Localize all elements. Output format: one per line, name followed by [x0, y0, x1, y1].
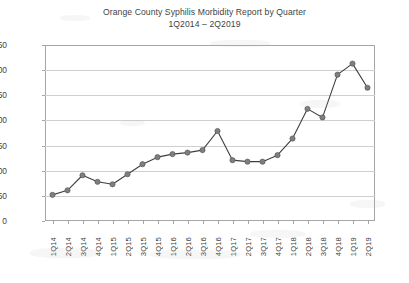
data-point: [320, 115, 325, 120]
chart-title-line2: 1Q2014 – 2Q2019: [0, 19, 409, 31]
x-axis-tick-label: 1Q18: [289, 237, 298, 256]
x-axis-tick-mark: [128, 221, 129, 224]
data-point: [155, 155, 160, 160]
x-axis-tick-mark: [308, 221, 309, 224]
data-point: [305, 106, 310, 111]
y-axis-tick-label: 350: [0, 40, 7, 50]
x-axis-tick-label: 3Q14: [79, 237, 88, 256]
x-axis-tick-label: 1Q17: [229, 237, 238, 256]
x-axis-tick-mark: [248, 221, 249, 224]
x-axis-tick-mark: [188, 221, 189, 224]
x-axis-tick-label: 4Q15: [154, 237, 163, 256]
x-axis-tick-label: 4Q18: [334, 237, 343, 256]
x-axis-tick-label: 3Q18: [319, 237, 328, 256]
data-point: [80, 173, 85, 178]
x-axis-tick-label: 2Q18: [304, 237, 313, 256]
x-axis-tick-label: 4Q17: [274, 237, 283, 256]
data-point: [350, 61, 355, 66]
y-axis-tick-mark: [42, 221, 45, 222]
y-axis-tick-label: 100: [0, 166, 7, 176]
x-axis-tick-mark: [83, 221, 84, 224]
data-point: [125, 172, 130, 177]
chart-card: Orange County Syphilis Morbidity Report …: [0, 0, 409, 283]
x-axis-tick-mark: [368, 221, 369, 224]
x-axis-tick-mark: [263, 221, 264, 224]
y-axis-tick-label: 150: [0, 141, 7, 151]
x-axis-tick-mark: [338, 221, 339, 224]
y-axis-tick-label: 200: [0, 115, 7, 125]
x-axis-tick-mark: [233, 221, 234, 224]
x-axis-tick-mark: [293, 221, 294, 224]
x-axis-tick-label: 1Q16: [169, 237, 178, 256]
data-point: [290, 136, 295, 141]
y-axis-tick-label: 300: [0, 65, 7, 75]
x-axis-tick-label: 1Q15: [109, 237, 118, 256]
data-point: [185, 150, 190, 155]
series-line: [53, 64, 368, 195]
data-series-syphilis: [45, 45, 375, 221]
data-point: [260, 159, 265, 164]
x-axis-tick-mark: [68, 221, 69, 224]
x-axis-tick-label: 2Q19: [364, 237, 373, 256]
data-point: [215, 128, 220, 133]
y-axis-tick-label: 50: [0, 191, 7, 201]
plot-area: 050100150200250300350 1Q142Q143Q144Q141Q…: [45, 45, 375, 221]
data-point: [50, 192, 55, 197]
x-axis-tick-mark: [143, 221, 144, 224]
y-axis-tick-label: 0: [0, 216, 7, 226]
chart-title: Orange County Syphilis Morbidity Report …: [0, 7, 409, 30]
x-axis-tick-label: 1Q14: [49, 237, 58, 256]
x-axis-tick-mark: [173, 221, 174, 224]
x-axis-tick-mark: [203, 221, 204, 224]
x-axis-tick-label: 3Q15: [139, 237, 148, 256]
y-axis-tick-label: 250: [0, 90, 7, 100]
x-axis-tick-label: 2Q16: [184, 237, 193, 256]
data-point: [365, 85, 370, 90]
x-axis-tick-mark: [98, 221, 99, 224]
x-axis-tick-label: 2Q17: [244, 237, 253, 256]
data-point: [65, 188, 70, 193]
data-point: [110, 182, 115, 187]
x-axis-tick-mark: [53, 221, 54, 224]
x-axis-tick-label: 3Q17: [259, 237, 268, 256]
data-point: [335, 72, 340, 77]
data-point: [245, 159, 250, 164]
x-axis-tick-label: 1Q19: [349, 237, 358, 256]
data-point: [170, 152, 175, 157]
chart-title-line1: Orange County Syphilis Morbidity Report …: [103, 7, 306, 17]
x-axis-tick-label: 3Q16: [199, 237, 208, 256]
x-axis-tick-label: 4Q14: [94, 237, 103, 256]
x-axis-tick-mark: [323, 221, 324, 224]
x-axis-tick-label: 2Q14: [64, 237, 73, 256]
x-axis-tick-mark: [218, 221, 219, 224]
data-point: [275, 153, 280, 158]
data-point: [95, 179, 100, 184]
data-point: [140, 162, 145, 167]
data-point: [200, 148, 205, 153]
x-axis-tick-mark: [278, 221, 279, 224]
x-axis-tick-label: 2Q15: [124, 237, 133, 256]
x-axis-tick-mark: [113, 221, 114, 224]
x-axis-tick-label: 4Q16: [214, 237, 223, 256]
x-axis-tick-mark: [158, 221, 159, 224]
data-point: [230, 158, 235, 163]
x-axis-tick-mark: [353, 221, 354, 224]
